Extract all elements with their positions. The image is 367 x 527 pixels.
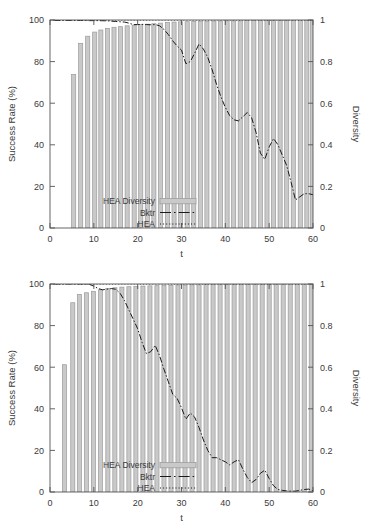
diversity-bar [225,21,229,228]
diversity-bar [169,285,173,492]
diversity-bar [274,284,278,492]
x-axis-title: t [180,248,183,259]
x-tick-label: 20 [133,498,143,508]
y2-tick-label: 0 [320,487,325,497]
diversity-bar [185,22,189,228]
diversity-bar [258,21,262,228]
diversity-bar [239,284,243,492]
diversity-bar [197,285,201,492]
diversity-bar [190,285,194,492]
figure-root: 0102030405060t020406080100Success Rate (… [0,0,367,527]
diversity-bar [252,21,256,228]
legend-label: Bktr [140,208,155,218]
bottom-panel: 0102030405060t020406080100Success Rate (… [0,264,367,527]
diversity-bar [218,21,222,228]
y2-axis-title: Diversity [351,370,362,407]
diversity-bar [246,284,250,492]
diversity-bar [211,285,215,492]
x-tick-label: 10 [89,234,99,244]
x-tick-label: 40 [220,234,230,244]
legend-label: HEA [138,219,156,229]
x-tick-label: 60 [308,498,318,508]
y2-tick-label: 0.8 [320,57,333,67]
diversity-bar [155,286,159,492]
y2-tick-label: 1 [320,15,325,25]
y-axis-title: Success Rate (%) [6,86,17,162]
diversity-bar [71,303,75,492]
diversity-bar [183,285,187,492]
legend-label: HEA Diversity [103,460,156,470]
diversity-bar [198,21,202,228]
y-axis-left: 020406080100 [29,15,55,233]
diversity-bar [98,290,102,492]
x-axis-title: t [180,512,183,523]
y2-tick-label: 1 [320,279,325,289]
legend-swatch-box [160,198,196,203]
x-tick-label: 50 [264,498,274,508]
legend: HEA DiversityBktrHEA [103,196,196,229]
diversity-bar [281,284,285,492]
diversity-bar [278,20,282,228]
diversity-bar [79,43,83,228]
diversity-bar [232,21,236,228]
y-tick-label: 100 [29,15,44,25]
diversity-bar [225,284,229,492]
y-tick-label: 0 [39,487,44,497]
y-tick-label: 80 [34,57,44,67]
y-axis-title: Success Rate (%) [6,350,17,426]
diversity-bar [93,32,97,228]
y-tick-label: 60 [34,99,44,109]
diversity-bar [267,284,271,492]
x-tick-label: 0 [47,498,52,508]
x-tick-label: 50 [264,234,274,244]
diversity-bar [91,291,95,492]
y2-tick-label: 0.6 [320,363,333,373]
y2-tick-label: 0.4 [320,140,333,150]
diversity-bar [162,285,166,492]
x-tick-label: 30 [176,498,186,508]
line-series [50,284,313,491]
y2-tick-label: 0.8 [320,321,333,331]
diversity-bar [172,22,176,228]
y-tick-label: 40 [34,404,44,414]
y2-axis-title: Diversity [351,106,362,143]
bottom-chart-svg: 0102030405060t020406080100Success Rate (… [0,264,367,527]
y2-tick-label: 0 [320,223,325,233]
diversity-bar [295,284,299,492]
diversity-bar [218,285,222,492]
diversity-bar [165,23,169,229]
top-panel: 0102030405060t020406080100Success Rate (… [0,0,367,263]
legend-label: Bktr [140,472,155,482]
diversity-bar [285,20,289,228]
bar-series [62,284,313,492]
diversity-bar [253,284,257,492]
y-tick-label: 80 [34,321,44,331]
bottom-plot-area: 0102030405060t020406080100Success Rate (… [0,264,367,527]
diversity-bar [176,285,180,492]
diversity-bar [77,294,81,492]
x-tick-label: 30 [176,234,186,244]
top-plot-area: 0102030405060t020406080100Success Rate (… [0,0,367,263]
x-tick-label: 0 [47,234,52,244]
x-tick-label: 20 [133,234,143,244]
legend-swatch-box [160,462,196,467]
y-tick-label: 60 [34,363,44,373]
diversity-bar [72,75,76,229]
diversity-bar [238,21,242,228]
diversity-bar [84,293,88,492]
diversity-bar [62,365,66,492]
x-tick-label: 60 [308,234,318,244]
diversity-bar [86,36,90,228]
y2-tick-label: 0.4 [320,404,333,414]
axes-frame [50,284,313,492]
x-tick-label: 40 [220,498,230,508]
diversity-bar [204,285,208,492]
diversity-bar [305,20,309,228]
y2-tick-label: 0.2 [320,182,333,192]
diversity-bar [272,20,276,228]
diversity-bar [288,284,292,492]
top-chart-svg: 0102030405060t020406080100Success Rate (… [0,0,367,263]
y-tick-label: 20 [34,446,44,456]
y2-tick-label: 0.6 [320,99,333,109]
legend-label: HEA Diversity [103,196,156,206]
